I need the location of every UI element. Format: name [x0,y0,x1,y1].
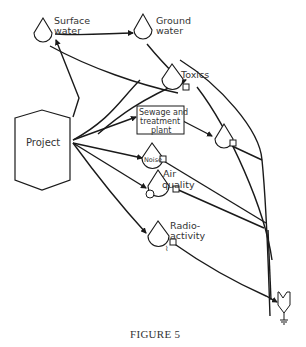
flow-toxics-out [197,87,272,260]
flow-surface-to-toxics [50,46,178,93]
surface-water-storage: Surface water [34,15,90,42]
sewage-label-2: treatment [140,117,180,126]
unlabeled-storage [215,124,236,148]
sewage-label-3: plant [151,126,171,135]
radioactivity-heat-mark: ⌇ [165,245,168,253]
project-label: Project [26,137,60,148]
ground-water-label-2: water [156,25,183,36]
sink-consumer [278,292,290,324]
radioactivity-label-2: activity [170,230,205,241]
flow-project-to-sewage [73,117,136,140]
ground-water-storage: Ground water [134,14,191,39]
energy-flow-diagram: Project Surface water Ground water Toxic… [0,0,306,347]
noise-storage: Noise [142,143,166,169]
flow-project-to-noise [73,143,142,158]
project-node: Project [15,110,70,190]
sewage-label-1: Sewage and [139,108,188,117]
air-quality-label-1: Air [163,168,176,179]
flow-project-to-air [73,143,146,188]
toxics-storage: Toxics [162,64,209,90]
flow-radio-to-sink [173,243,277,302]
flow-sewage-to-storage [183,121,212,136]
surface-water-label-2: water [54,25,81,36]
figure-caption: FIGURE 5 [130,328,181,340]
sewage-plant-box: Sewage and treatment plant [137,106,188,135]
air-quality-label-2: quality [162,179,195,190]
toxics-label: Toxics [180,69,209,80]
radioactivity-storage: ⌇ Radio- activity [148,220,205,253]
noise-label: Noise [144,156,162,164]
